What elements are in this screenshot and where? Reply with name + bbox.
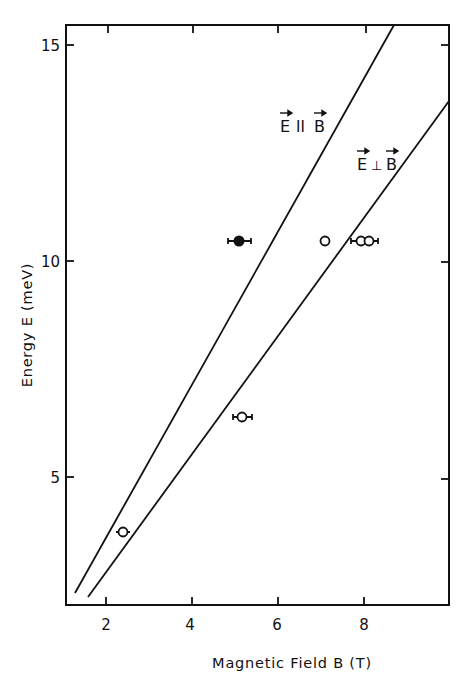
data-point-open bbox=[321, 237, 330, 246]
y-tick-label: 5 bbox=[50, 469, 60, 487]
label-e: E bbox=[280, 117, 290, 136]
line-e-perp-b bbox=[88, 101, 449, 597]
data-point-open-pair bbox=[351, 237, 378, 246]
y-axis-title: Energy E (meV) bbox=[19, 263, 35, 388]
x-tick-label: 4 bbox=[185, 616, 195, 634]
y-tick-label: 10 bbox=[41, 253, 60, 271]
label-b: B bbox=[386, 155, 397, 174]
x-tick-label: 6 bbox=[272, 616, 282, 634]
vector-arrow-icon bbox=[357, 149, 398, 154]
vector-arrow-icon bbox=[280, 111, 326, 116]
label-parallel-symbol: II bbox=[296, 118, 305, 136]
x-ticks-top bbox=[108, 25, 366, 33]
data-point-open bbox=[116, 528, 130, 537]
y-tick-label: 15 bbox=[41, 37, 60, 55]
label-e-parallel-b: E II B bbox=[280, 111, 326, 137]
x-axis-title: Magnetic Field B (T) bbox=[212, 655, 372, 671]
label-perp-symbol: ⊥ bbox=[371, 158, 382, 173]
label-e: E bbox=[357, 155, 367, 174]
y-ticks-left bbox=[66, 45, 74, 477]
line-e-parallel-b bbox=[75, 25, 394, 593]
data-point-open bbox=[233, 413, 252, 422]
x-tick-label: 8 bbox=[359, 616, 369, 634]
x-ticks-bottom bbox=[106, 597, 364, 605]
plot-frame bbox=[66, 25, 449, 605]
data-point-filled bbox=[228, 236, 251, 247]
label-e-perp-b: E ⊥ B bbox=[357, 149, 398, 175]
x-tick-label: 2 bbox=[101, 616, 111, 634]
label-b: B bbox=[314, 117, 325, 136]
chart-canvas: 2 4 6 8 5 10 15 Magnetic Field B (T) Ene… bbox=[0, 0, 467, 686]
